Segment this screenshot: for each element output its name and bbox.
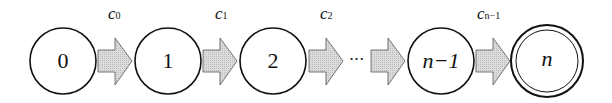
arrow-ellipsis-n-minus-1 [371,38,405,85]
node-label-n-minus-1: n−1 [406,48,476,74]
edge-label-c0: c0 [108,4,121,24]
edge-label-c1: c1 [215,4,228,24]
arrow-2-ellipsis [309,38,343,85]
edge-label-cn-minus-1: cn−1 [477,4,500,24]
node-label-2: 2 [238,48,308,74]
node-label-n: n [512,46,582,72]
arrow-0-1 [98,38,132,85]
arrow-n-minus-1-n [476,38,510,85]
edge-label-c2: c2 [320,4,333,24]
ellipsis: ··· [349,50,364,69]
arrow-1-2 [203,38,237,85]
node-label-0: 0 [28,48,98,74]
node-label-1: 1 [133,48,203,74]
